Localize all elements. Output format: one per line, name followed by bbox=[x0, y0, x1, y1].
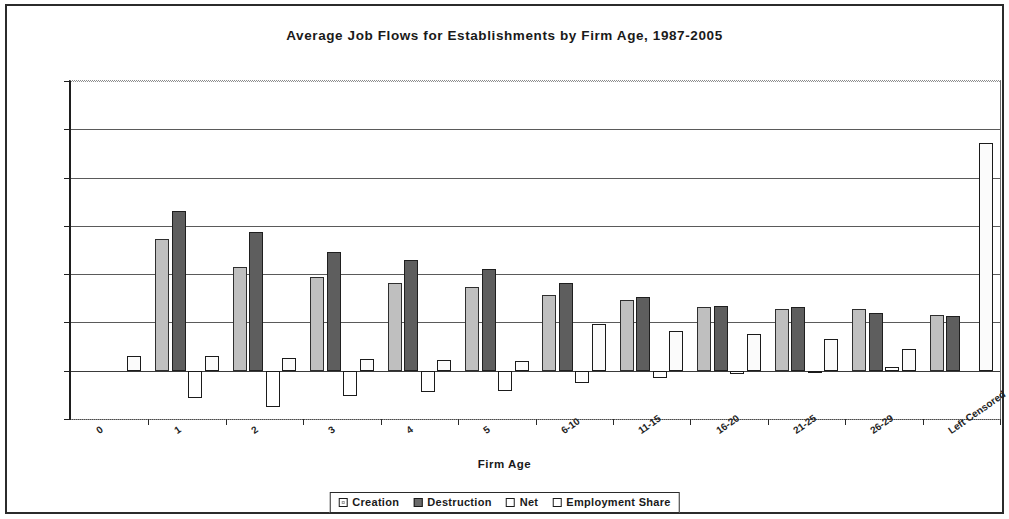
bar-destruction bbox=[714, 306, 728, 371]
x-axis-tick-label: 5 bbox=[481, 424, 492, 436]
chart-frame: Average Job Flows for Establishments by … bbox=[5, 4, 1004, 514]
bar-group bbox=[923, 81, 1000, 419]
y-axis-tick bbox=[64, 178, 71, 179]
bar-employment-share bbox=[360, 359, 374, 371]
chart-legend: CreationDestructionNetEmployment Share bbox=[329, 492, 680, 513]
x-axis-tick bbox=[1000, 419, 1001, 425]
bar-net bbox=[421, 371, 435, 393]
bar-net bbox=[498, 371, 512, 392]
legend-label: Creation bbox=[352, 496, 399, 508]
bar-destruction bbox=[559, 283, 573, 371]
bar-destruction bbox=[946, 316, 960, 371]
bar-employment-share bbox=[979, 143, 993, 371]
bar-creation bbox=[697, 307, 711, 370]
bar-destruction bbox=[869, 313, 883, 371]
bar-group bbox=[845, 81, 922, 419]
bar-destruction bbox=[636, 297, 650, 371]
bar-employment-share bbox=[515, 361, 529, 371]
bar-net bbox=[575, 371, 589, 384]
bar-creation bbox=[310, 277, 324, 371]
bar-group bbox=[536, 81, 613, 419]
bar-group bbox=[458, 81, 535, 419]
y-axis-tick bbox=[64, 322, 71, 323]
x-axis-tick-label: 1 bbox=[172, 424, 183, 436]
legend-label: Net bbox=[520, 496, 539, 508]
bar-group bbox=[148, 81, 225, 419]
bar-net bbox=[885, 367, 899, 370]
bar-net bbox=[266, 371, 280, 408]
y-axis-tick bbox=[64, 371, 71, 372]
x-axis-tick bbox=[303, 419, 304, 425]
bar-group bbox=[303, 81, 380, 419]
bar-destruction bbox=[482, 269, 496, 370]
bar-employment-share bbox=[669, 331, 683, 371]
y-axis-tick bbox=[64, 129, 71, 130]
legend-item: Creation bbox=[338, 496, 399, 508]
x-axis-tick bbox=[148, 419, 149, 425]
x-axis-tick bbox=[536, 419, 537, 425]
bar-creation bbox=[930, 315, 944, 371]
bar-employment-share bbox=[437, 360, 451, 371]
bar-group bbox=[226, 81, 303, 419]
x-axis-tick-label: 0 bbox=[94, 424, 105, 436]
bar-creation bbox=[542, 295, 556, 370]
legend-swatch-creation-icon bbox=[338, 498, 347, 507]
legend-item: Net bbox=[506, 496, 539, 508]
bar-destruction bbox=[327, 252, 341, 370]
bar-group bbox=[768, 81, 845, 419]
bar-net bbox=[343, 371, 357, 397]
bar-employment-share bbox=[592, 324, 606, 371]
x-axis-tick bbox=[613, 419, 614, 425]
x-axis-tick-label: 4 bbox=[404, 424, 415, 436]
bar-creation bbox=[775, 309, 789, 371]
bar-employment-share bbox=[824, 339, 838, 370]
x-axis-tick-label: 3 bbox=[326, 424, 337, 436]
x-axis-tick-label: 2 bbox=[249, 424, 260, 436]
bar-group bbox=[690, 81, 767, 419]
bar-net bbox=[730, 371, 744, 374]
legend-item: Destruction bbox=[413, 496, 491, 508]
bar-creation bbox=[852, 309, 866, 370]
legend-swatch-share-icon bbox=[552, 498, 561, 507]
y-axis-tick bbox=[64, 274, 71, 275]
bar-destruction bbox=[404, 260, 418, 371]
x-axis-tick bbox=[458, 419, 459, 425]
x-axis-tick bbox=[845, 419, 846, 425]
bar-group bbox=[613, 81, 690, 419]
bar-group bbox=[381, 81, 458, 419]
x-axis-title: Firm Age bbox=[7, 458, 1002, 470]
bar-creation bbox=[620, 300, 634, 370]
bar-destruction bbox=[172, 211, 186, 370]
bar-employment-share bbox=[902, 349, 916, 371]
x-axis-tick bbox=[226, 419, 227, 425]
bar-employment-share bbox=[747, 334, 761, 371]
x-axis-tick bbox=[690, 419, 691, 425]
x-axis-tick bbox=[768, 419, 769, 425]
y-axis-tick bbox=[64, 81, 71, 82]
bar-group bbox=[71, 81, 148, 419]
bar-employment-share bbox=[205, 356, 219, 370]
bar-creation bbox=[155, 239, 169, 371]
x-axis-tick bbox=[381, 419, 382, 425]
bar-creation bbox=[465, 287, 479, 371]
legend-label: Destruction bbox=[427, 496, 491, 508]
plot-area: -100102030405060 0123456-1011-1516-2021-… bbox=[69, 80, 1001, 420]
legend-label: Employment Share bbox=[566, 496, 670, 508]
bar-creation bbox=[388, 283, 402, 371]
bar-net bbox=[188, 371, 202, 399]
bar-destruction bbox=[791, 307, 805, 370]
y-axis-tick bbox=[64, 226, 71, 227]
bar-employment-share bbox=[282, 358, 296, 371]
bar-creation bbox=[233, 267, 247, 371]
chart-title: Average Job Flows for Establishments by … bbox=[7, 28, 1002, 43]
legend-item: Employment Share bbox=[552, 496, 670, 508]
legend-swatch-net-icon bbox=[506, 498, 515, 507]
bar-net bbox=[808, 371, 822, 373]
bar-net bbox=[653, 371, 667, 378]
bar-destruction bbox=[249, 232, 263, 371]
y-axis-tick bbox=[64, 419, 71, 420]
x-axis-tick bbox=[923, 419, 924, 425]
bar-employment-share bbox=[127, 356, 141, 370]
legend-swatch-destruction-icon bbox=[413, 498, 422, 507]
